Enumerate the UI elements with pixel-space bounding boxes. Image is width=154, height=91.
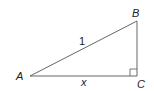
vertex-label-a: A <box>15 70 23 82</box>
vertex-label-b: B <box>132 7 139 19</box>
base-label: x <box>80 76 87 88</box>
right-angle-marker <box>130 69 137 76</box>
hypotenuse-label: 1 <box>79 35 85 47</box>
vertex-label-c: C <box>137 78 145 90</box>
triangle-diagram: A B C 1 x <box>0 0 154 91</box>
triangle-abc <box>30 21 137 76</box>
